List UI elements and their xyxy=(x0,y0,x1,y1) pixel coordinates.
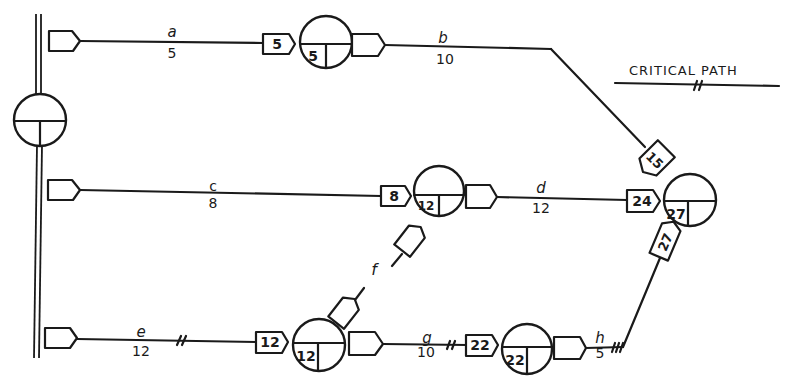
activity-a-label: a xyxy=(167,23,176,41)
critical-mark-h xyxy=(612,343,623,352)
activity-g: g 10 22 xyxy=(349,329,498,360)
finish-tag-d-value: 24 xyxy=(632,193,652,209)
activity-d: d 12 24 xyxy=(466,179,660,216)
finish-tag-c-value: 8 xyxy=(389,188,399,204)
finish-tag-b: 15 xyxy=(634,140,674,180)
activity-g-duration: 10 xyxy=(417,344,435,360)
start-tag-h xyxy=(554,337,586,359)
activity-a-duration: 5 xyxy=(168,45,177,61)
end-node-value: 27 xyxy=(666,206,685,222)
activity-b: b 10 15 xyxy=(352,29,675,181)
finish-tag-e-value: 12 xyxy=(260,334,279,350)
start-rail xyxy=(34,14,42,358)
start-tag-b xyxy=(352,34,385,56)
activity-f-label: f xyxy=(371,260,379,279)
node-4-value: 22 xyxy=(505,352,524,368)
start-tag-g xyxy=(349,332,383,355)
cpm-network-diagram: a 5 5 5 b 10 15 c 8 8 12 xyxy=(0,0,796,387)
activity-b-duration: 10 xyxy=(436,51,454,67)
node-3: 12 xyxy=(293,319,345,371)
activity-e-label: e xyxy=(136,323,145,341)
activity-c-duration: 8 xyxy=(209,195,218,211)
activity-c-label: c xyxy=(209,178,217,194)
start-tag-c xyxy=(48,180,80,200)
activity-h-duration: 5 xyxy=(596,345,605,361)
start-tag-d xyxy=(466,185,497,208)
activity-b-label: b xyxy=(438,29,448,47)
node-3-value: 12 xyxy=(296,348,315,364)
end-node: 27 xyxy=(664,174,716,226)
node-4: 22 xyxy=(502,324,552,374)
activity-e: e 12 12 xyxy=(45,323,288,359)
start-tag-a xyxy=(49,31,80,51)
node-2: 12 xyxy=(414,166,464,216)
node-1-value: 5 xyxy=(308,48,318,64)
activity-d-duration: 12 xyxy=(532,200,550,216)
node-2-value: 12 xyxy=(418,199,435,213)
activity-h: h 5 27 xyxy=(554,218,683,361)
activity-e-duration: 12 xyxy=(132,343,150,359)
activity-f-dummy: f xyxy=(328,221,428,329)
dummy-tag-top xyxy=(394,221,428,257)
activity-c: c 8 8 xyxy=(48,178,411,211)
legend-title: CRITICAL PATH xyxy=(629,63,738,78)
start-tag-e xyxy=(45,328,77,348)
legend: CRITICAL PATH xyxy=(615,63,779,90)
activity-a: a 5 5 xyxy=(49,23,295,61)
finish-tag-a-value: 5 xyxy=(272,36,282,52)
activity-d-label: d xyxy=(536,179,546,197)
node-1: 5 xyxy=(300,16,352,68)
finish-tag-g-value: 22 xyxy=(470,337,489,353)
start-node xyxy=(14,94,66,146)
